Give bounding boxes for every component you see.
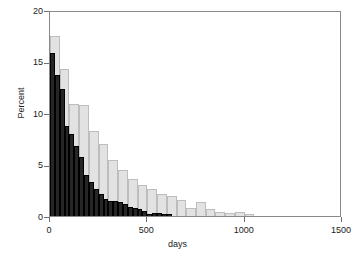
- x-axis-tick: [49, 217, 50, 222]
- x-axis-tick: [244, 217, 245, 222]
- histogram-bar: [206, 209, 216, 216]
- histogram-bar: [167, 196, 177, 216]
- y-axis-title: Percent: [16, 73, 26, 133]
- y-axis-tick-label: 20: [33, 7, 43, 16]
- x-axis-title: days: [0, 239, 355, 249]
- plot-area: [49, 11, 341, 217]
- x-axis-tick-label: 1000: [234, 226, 254, 235]
- histogram-bar: [245, 214, 255, 216]
- histogram-bar: [167, 214, 172, 216]
- x-axis-tick-label: 500: [139, 226, 154, 235]
- histogram-figure: Percent 05101520 050010001500 days: [0, 0, 355, 262]
- histogram-bar: [215, 212, 225, 216]
- y-axis-tick-label: 10: [33, 110, 43, 119]
- x-axis-tick-label: 1500: [331, 226, 351, 235]
- histogram-bar: [177, 200, 187, 216]
- y-axis-tick-label: 5: [38, 161, 43, 170]
- y-axis-tick-label: 15: [33, 58, 43, 67]
- x-axis-tick-label: 0: [46, 226, 51, 235]
- histogram-bar: [235, 212, 245, 216]
- histogram-bar: [186, 208, 196, 216]
- x-axis-tick: [341, 217, 342, 222]
- y-axis-tick-label: 0: [38, 213, 43, 222]
- histogram-bar: [196, 202, 206, 216]
- x-axis-tick: [146, 217, 147, 222]
- bars-layer: [50, 12, 340, 216]
- histogram-bar: [225, 213, 235, 216]
